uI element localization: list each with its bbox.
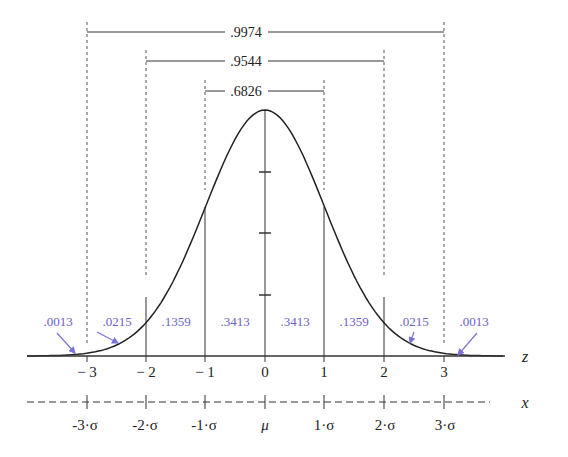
z-axis-name: z [521, 348, 529, 365]
arrow-icon [410, 332, 414, 343]
x-tick-label: μ [260, 417, 269, 433]
x-tick-label: 2·σ [375, 417, 396, 433]
x-tick-label: 1·σ [314, 417, 335, 433]
z-tick-label: 3 [440, 364, 448, 380]
z-tick-label: 2 [380, 364, 388, 380]
region-label: .0215 [399, 314, 428, 329]
z-tick-label: 0 [261, 364, 269, 380]
z-tick-label: − 3 [77, 364, 97, 380]
region-label: .1359 [161, 314, 190, 329]
arrow-icon [97, 332, 118, 343]
bracket-label-9974: .9974 [230, 25, 262, 40]
region-label: .3413 [280, 314, 309, 329]
region-label: .0215 [102, 314, 131, 329]
region-label: .1359 [339, 314, 368, 329]
region-label: .0013 [459, 314, 488, 329]
x-tick-label: -1·σ [191, 417, 217, 433]
x-tick-label: -2·σ [132, 417, 158, 433]
arrow-icon [458, 333, 477, 355]
z-tick-label: − 1 [195, 364, 215, 380]
x-tick-label: -3·σ [72, 417, 98, 433]
bracket-label-9544: .9544 [230, 54, 262, 69]
x-axis-name: x [520, 394, 528, 411]
z-tick-label: 1 [320, 364, 328, 380]
normal-distribution-chart: .9974 .9544 .6826 − 3 − 2 − 1 0 1 2 [0, 0, 568, 457]
z-tick-label: − 2 [136, 364, 156, 380]
region-labels: .0013 .0215 .1359 .3413 .3413 .1359 .021… [43, 314, 488, 329]
bracket-label-6826: .6826 [230, 84, 262, 99]
region-label: .0013 [43, 314, 72, 329]
arrow-icon [57, 333, 75, 353]
x-tick-label: 3·σ [435, 417, 456, 433]
z-axis-ticks [87, 356, 444, 362]
region-label: .3413 [220, 314, 249, 329]
